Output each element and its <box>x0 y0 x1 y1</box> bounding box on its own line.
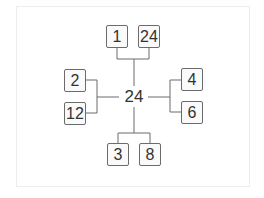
connector-left <box>86 80 97 113</box>
factor-box-top-left: 1 <box>106 25 128 48</box>
connector-top <box>117 48 149 59</box>
factor-box-top-right: 24 <box>138 25 160 48</box>
factor-box-bottom-left: 3 <box>107 143 129 166</box>
factor-box-left-top: 2 <box>64 69 86 92</box>
center-number: 24 <box>119 87 149 107</box>
connector-right <box>170 80 181 112</box>
factor-box-right-bottom: 6 <box>181 101 203 124</box>
factor-box-left-bottom: 12 <box>64 102 86 125</box>
factor-box-bottom-right: 8 <box>139 143 161 166</box>
connector-bottom <box>118 133 150 143</box>
factor-box-right-top: 4 <box>181 68 203 91</box>
